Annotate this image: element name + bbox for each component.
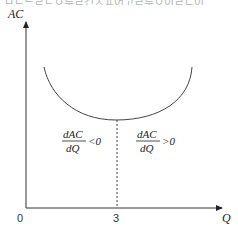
right-derivative-label: dAC dQ >0 xyxy=(136,128,175,154)
ac-curve xyxy=(44,67,192,120)
ac-curve-diagram: AC Q 0 3 dAC dQ <0 dAC dQ >0 xyxy=(0,0,238,227)
left-denominator: dQ xyxy=(66,142,80,154)
y-axis-label: AC xyxy=(7,7,24,21)
right-relation: >0 xyxy=(162,135,175,147)
right-numerator: dAC xyxy=(137,128,157,140)
x-axis-label: Q xyxy=(222,211,231,225)
x-tick-label: 3 xyxy=(113,212,119,224)
left-relation: <0 xyxy=(88,135,101,147)
origin-label: 0 xyxy=(17,212,23,224)
right-denominator: dQ xyxy=(140,142,154,154)
left-derivative-label: dAC dQ <0 xyxy=(62,128,101,154)
left-numerator: dAC xyxy=(63,128,83,140)
